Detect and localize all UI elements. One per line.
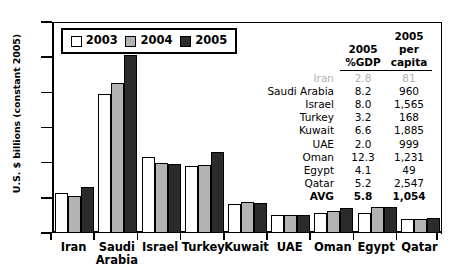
side-table-cell-name: Saudi Arabia <box>254 85 340 98</box>
bar-egypt-2005 <box>384 207 397 233</box>
y-axis-title: U.S. $ billions (constant 2005) <box>11 14 22 214</box>
bar-iran-2003 <box>55 193 68 233</box>
side-table-cell-name: UAE <box>254 138 340 151</box>
bar-israel-2004 <box>155 163 168 233</box>
side-table-header-per-capita: 2005 per capita <box>386 30 432 71</box>
legend-label-2004: 2004 <box>140 35 172 47</box>
x-tick-8 <box>396 233 398 240</box>
bar-israel-2003 <box>142 157 155 233</box>
bar-kuwait-2003 <box>228 204 241 233</box>
side-table-cell-per-capita: 960 <box>386 85 432 98</box>
y-tick-15 <box>41 127 52 129</box>
side-table-cell-per-capita: 1,231 <box>386 151 432 164</box>
y-tick-5 <box>41 197 52 199</box>
side-table-header-capita-per: per <box>399 43 419 55</box>
side-table-header-gdp: 2005 %GDP <box>340 43 386 70</box>
side-table-cell-name: Oman <box>254 151 340 164</box>
legend-swatch-icon-2003 <box>71 36 82 47</box>
side-table-row: Saudi Arabia8.2960 <box>236 85 432 98</box>
side-table-cell-gdp: 5.8 <box>340 190 386 203</box>
bar-saudi-arabia-2003 <box>98 94 111 233</box>
side-table-rows: Iran2.881Saudi Arabia8.2960Israel8.01,56… <box>236 72 432 204</box>
x-tick-1 <box>93 233 95 240</box>
legend-swatch-icon-2004 <box>125 36 136 47</box>
bar-egypt-2003 <box>358 213 371 233</box>
side-table-row: Egypt4.149 <box>236 164 432 177</box>
bar-kuwait-2005 <box>254 203 267 233</box>
side-table-header-gdp-year: 2005 <box>348 43 377 55</box>
bar-oman-2004 <box>327 211 340 233</box>
side-table-cell-name: Kuwait <box>254 124 340 137</box>
bar-uae-2004 <box>284 215 297 233</box>
bar-qatar-2004 <box>414 219 427 233</box>
bar-iran-2004 <box>68 196 81 233</box>
y-tick-30 <box>41 21 52 23</box>
bar-iran-2005 <box>81 187 94 233</box>
x-tick-6 <box>309 233 311 240</box>
side-table-row: Israel8.01,565 <box>236 98 432 111</box>
chart-figure: U.S. $ billions (constant 2005) 05101520… <box>0 0 451 275</box>
side-table-cell-per-capita: 1,054 <box>386 190 432 203</box>
side-table-cell-name: AVG <box>254 190 340 203</box>
x-tick-3 <box>180 233 182 240</box>
x-tick-2 <box>137 233 139 240</box>
side-table-cell-gdp: 6.6 <box>340 124 386 137</box>
side-table-cell-gdp: 4.1 <box>340 164 386 177</box>
bar-qatar-2003 <box>401 219 414 233</box>
bar-turkey-2003 <box>185 166 198 233</box>
legend: 2003 2004 2005 <box>61 28 237 54</box>
side-table-cell-gdp: 8.2 <box>340 85 386 98</box>
y-tick-25 <box>41 56 52 58</box>
side-table-cell-gdp: 5.2 <box>340 177 386 190</box>
x-axis-label-qatar: Qatar <box>374 241 451 254</box>
bar-turkey-2005 <box>211 152 224 233</box>
bar-saudi-arabia-2005 <box>124 55 137 233</box>
bar-saudi-arabia-2004 <box>111 83 124 234</box>
side-table-cell-per-capita: 1,565 <box>386 98 432 111</box>
y-tick-10 <box>41 162 52 164</box>
side-table-cell-per-capita: 1,885 <box>386 124 432 137</box>
legend-label-2003: 2003 <box>86 35 118 47</box>
bar-israel-2005 <box>168 164 181 233</box>
side-table-cell-gdp: 2.0 <box>340 138 386 151</box>
side-table-row: Iran2.881 <box>236 72 432 85</box>
side-table-row: Oman12.31,231 <box>236 151 432 164</box>
x-tick-4 <box>223 233 225 240</box>
side-table-cell-per-capita: 999 <box>386 138 432 151</box>
side-table-row: Qatar5.22,547 <box>236 177 432 190</box>
bar-egypt-2004 <box>371 207 384 233</box>
plot-right-border <box>441 22 442 234</box>
side-table-header-capita-word: capita <box>386 56 432 70</box>
side-table: 2005 %GDP 2005 per capita Iran2.881Saudi… <box>236 30 432 204</box>
side-table-header-capita-year: 2005 <box>394 30 423 42</box>
side-table-header: 2005 %GDP 2005 per capita <box>236 30 432 71</box>
legend-item-2003: 2003 <box>71 35 118 47</box>
x-tick-5 <box>266 233 268 240</box>
side-table-row: Kuwait6.61,885 <box>236 124 432 137</box>
bar-oman-2003 <box>314 213 327 233</box>
side-table-cell-per-capita: 168 <box>386 111 432 124</box>
side-table-cell-name: Iran <box>254 72 340 85</box>
side-table-cell-gdp: 8.0 <box>340 98 386 111</box>
x-tick-0 <box>50 233 52 240</box>
side-table-cell-name: Egypt <box>254 164 340 177</box>
side-table-cell-name: Qatar <box>254 177 340 190</box>
x-tick-7 <box>353 233 355 240</box>
bar-kuwait-2004 <box>241 202 254 233</box>
side-table-cell-name: Israel <box>254 98 340 111</box>
legend-swatch-icon-2005 <box>180 36 191 47</box>
side-table-cell-gdp: 12.3 <box>340 151 386 164</box>
side-table-cell-per-capita: 2,547 <box>386 177 432 190</box>
bar-uae-2003 <box>271 215 284 233</box>
bar-qatar-2005 <box>427 218 440 233</box>
side-table-row: UAE2.0999 <box>236 138 432 151</box>
bar-oman-2005 <box>340 208 353 233</box>
side-table-row: AVG5.81,054 <box>236 190 432 203</box>
side-table-cell-per-capita: 49 <box>386 164 432 177</box>
side-table-cell-gdp: 3.2 <box>340 111 386 124</box>
bar-uae-2005 <box>297 215 310 233</box>
side-table-header-gdp-metric: %GDP <box>340 56 386 70</box>
y-tick-20 <box>41 92 52 94</box>
bar-turkey-2004 <box>198 165 211 233</box>
side-table-cell-name: Turkey <box>254 111 340 124</box>
